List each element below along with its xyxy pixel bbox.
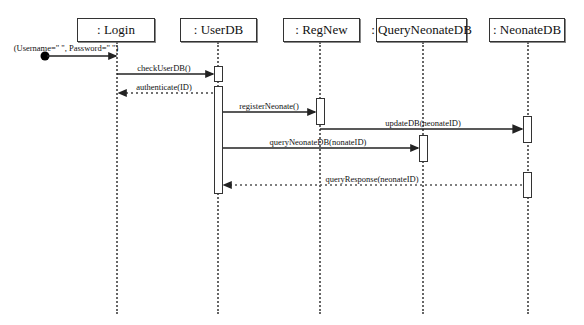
message-label-queryneonatedb: queryNeonateDB(nonateID) xyxy=(270,137,367,147)
message-label-registerneonate: registerNeonate() xyxy=(239,101,298,111)
message-label-checkuserdb: checkUserDB() xyxy=(137,63,190,73)
message-label-queryresponse: queryResponse(neonateID) xyxy=(326,174,419,184)
message-label-updatedb: updateDB(neonateID) xyxy=(385,118,461,128)
message-label-authenticate: authenticate(ID) xyxy=(136,82,192,92)
initial-message-label: (Username=" ", Password=" ") xyxy=(14,43,119,53)
